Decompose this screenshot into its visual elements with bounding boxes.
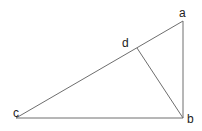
label-a: a [179,6,186,20]
segments [16,21,183,118]
label-b: b [187,112,194,126]
segment-ca [16,21,183,118]
label-d: d [122,36,129,50]
triangle-diagram: a b c d [0,0,202,131]
vertex-labels: a b c d [13,6,194,126]
label-c: c [13,106,19,120]
segment-db [137,48,183,118]
